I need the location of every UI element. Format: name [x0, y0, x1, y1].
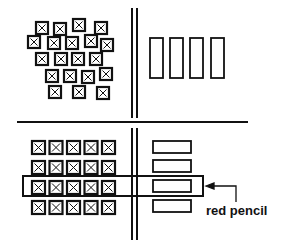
tall-rect — [170, 38, 183, 78]
tall-rect — [211, 38, 224, 78]
tall-rect — [190, 38, 203, 78]
tall-rect — [150, 38, 163, 78]
diagram: red pencil — [0, 0, 288, 247]
top-right-tall-rects — [150, 38, 224, 78]
top-left-scattered-boxes — [28, 19, 113, 99]
wide-rect — [153, 180, 191, 192]
wide-rect — [153, 160, 191, 172]
red-pencil-label: red pencil — [206, 203, 267, 218]
wide-rect — [153, 200, 191, 212]
arrow-icon — [206, 183, 236, 202]
bottom-left-grid-boxes — [32, 141, 115, 214]
wide-rect — [153, 141, 191, 153]
